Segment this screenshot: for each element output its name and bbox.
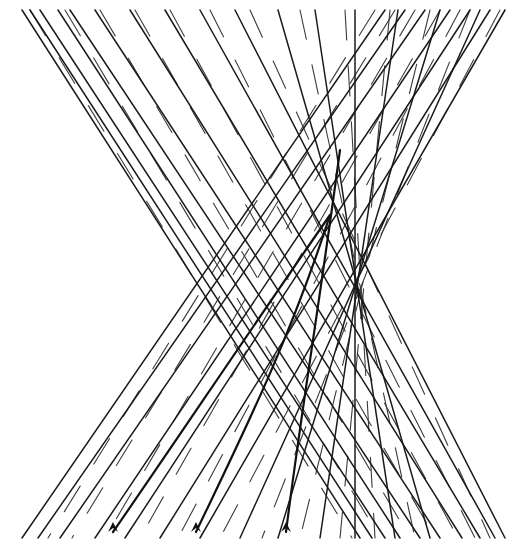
back-ruling-line: [210, 10, 475, 538]
front-ruling-line: [125, 10, 470, 538]
front-ruling-line: [95, 10, 440, 538]
front-ruling-line: [22, 10, 385, 538]
back-ruling-line: [262, 10, 470, 538]
front-ruling-line: [95, 10, 450, 538]
back-rulings-group: [30, 10, 500, 538]
front-ruling-line: [278, 10, 440, 538]
back-ruling-line: [72, 10, 395, 538]
back-ruling-line: [105, 10, 415, 538]
front-ruling-line: [278, 10, 430, 538]
front-ruling-line: [58, 10, 400, 538]
hyperboloid-diagram: [0, 0, 524, 560]
front-ruling-line: [160, 10, 490, 538]
front-ruling-line: [38, 10, 405, 538]
front-rulings-group: [22, 10, 505, 538]
generator-curve: [286, 150, 340, 532]
back-ruling-line: [300, 10, 415, 538]
front-ruling-line: [30, 10, 372, 538]
